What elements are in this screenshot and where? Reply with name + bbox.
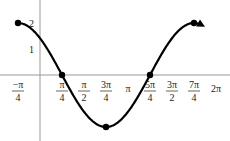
svg-text:2π: 2π [211,83,221,94]
y-tick-label: 2 [29,18,34,29]
svg-text:4: 4 [148,92,153,103]
key-point [191,20,197,26]
svg-text:5π: 5π [145,79,155,90]
y-tick-labels: 21 [29,18,34,55]
x-tick-label: 3π2 [166,79,178,103]
x-tick-label: 5π4 [144,79,156,103]
svg-text:7π: 7π [189,79,199,90]
svg-text:π: π [81,79,86,90]
svg-text:−π: −π [13,79,24,90]
x-tick-label: −π4 [12,79,24,103]
svg-text:π: π [59,79,64,90]
x-tick-labels: −π4π4π23π4π5π43π27π42π [12,79,221,103]
key-point [147,72,153,78]
svg-text:3π: 3π [101,79,111,90]
svg-text:4: 4 [59,92,64,103]
svg-text:2: 2 [169,92,174,103]
svg-text:4: 4 [16,92,21,103]
x-tick-label: 7π4 [188,79,200,103]
svg-text:2: 2 [82,92,87,103]
cosine-graph: −π4π4π23π4π5π43π27π42π 21 [0,0,230,141]
x-tick-label: π [125,83,130,94]
key-point [15,20,21,26]
y-tick-label: 1 [29,44,34,55]
key-point [59,72,65,78]
x-tick-label: 3π4 [100,79,112,103]
svg-text:4: 4 [192,92,197,103]
svg-text:4: 4 [103,92,108,103]
x-tick-label: 2π [211,83,221,94]
x-tick-label: π2 [78,79,90,103]
svg-text:3π: 3π [167,79,177,90]
svg-text:π: π [125,83,130,94]
key-point [103,124,109,130]
